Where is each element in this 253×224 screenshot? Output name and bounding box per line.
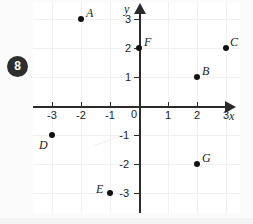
data-point-label: G xyxy=(202,151,211,166)
data-point-label: C xyxy=(230,35,238,50)
y-tick-label: 1 xyxy=(111,71,131,83)
x-tick xyxy=(52,102,53,107)
data-point[interactable] xyxy=(194,161,200,167)
x-tick-label: 0 xyxy=(124,108,144,120)
x-tick xyxy=(226,102,227,107)
y-tick xyxy=(134,164,139,165)
x-tick-label: -2 xyxy=(71,109,91,121)
data-point-label: B xyxy=(202,64,209,79)
x-tick-label: -3 xyxy=(42,109,62,121)
data-point[interactable] xyxy=(107,190,113,196)
x-axis-label: x xyxy=(229,109,234,124)
y-tick xyxy=(134,77,139,78)
worksheet-page: 8 -3 -2 xyxy=(0,0,253,224)
x-tick xyxy=(81,102,82,107)
x-tick xyxy=(168,102,169,107)
data-point-label: E xyxy=(96,182,103,197)
x-tick-label: 1 xyxy=(158,109,178,121)
y-axis-arrow-icon xyxy=(134,3,146,14)
data-point-label: F xyxy=(144,35,151,50)
y-tick-label: -2 xyxy=(109,158,129,170)
data-point-label: D xyxy=(39,138,48,153)
x-tick-label: 2 xyxy=(187,109,207,121)
y-tick xyxy=(134,19,139,20)
y-tick-label: -1 xyxy=(109,129,129,141)
data-point[interactable] xyxy=(194,74,200,80)
data-point[interactable] xyxy=(223,45,229,51)
x-tick xyxy=(110,102,111,107)
data-point[interactable] xyxy=(49,132,55,138)
problem-number-badge: 8 xyxy=(7,56,28,77)
data-point[interactable] xyxy=(136,45,142,51)
x-tick-label: -1 xyxy=(100,109,120,121)
y-tick-label: 2 xyxy=(111,42,131,54)
data-point[interactable] xyxy=(78,16,84,22)
y-tick xyxy=(134,135,139,136)
y-axis-label: y xyxy=(124,2,129,17)
x-tick xyxy=(197,102,198,107)
data-point-label: A xyxy=(86,6,93,21)
page-bottom-edge xyxy=(0,218,253,224)
coordinate-plane: -3 -2 -1 0 1 2 3 3 2 1 -1 -2 -3 x y A B … xyxy=(33,2,240,213)
y-tick xyxy=(134,193,139,194)
